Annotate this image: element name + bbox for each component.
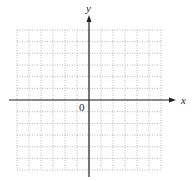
coordinate-plane: x y 0 (0, 0, 192, 181)
x-axis-arrow-icon (169, 98, 176, 103)
y-axis-label: y (85, 2, 91, 14)
x-axis-label: x (180, 94, 186, 106)
y-axis-arrow-icon (87, 15, 92, 22)
axes: x y 0 (9, 2, 186, 177)
origin-label: 0 (79, 101, 85, 113)
grid-diagram: x y 0 (0, 0, 192, 181)
